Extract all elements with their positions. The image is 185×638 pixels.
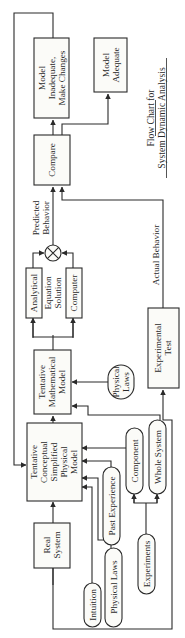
svg-text:Conceptual: Conceptual [39, 441, 49, 483]
actual-behavior-label: Actual Behavior [151, 225, 161, 285]
physical-laws-pill-1: Physical Laws [105, 548, 122, 627]
experimental-test-box: Experimental Test [148, 308, 179, 388]
experiments-pill: Experiments [138, 534, 155, 594]
svg-text:Intuition: Intuition [88, 589, 98, 621]
compare-box: Compare [34, 135, 70, 185]
model-inadequate-box: Model Inadequate, Make Changes [34, 38, 69, 118]
past-experience-connector [82, 461, 111, 467]
whole-system-connector [72, 406, 160, 420]
computer-box: Computer [66, 268, 82, 318]
analytical-box: Analytical [26, 268, 42, 318]
summing-junction [45, 245, 61, 261]
equation-solution-label: Equation Solution [43, 276, 63, 310]
svg-text:Past Experience: Past Experience [107, 477, 117, 536]
svg-text:Flow Chart for: Flow Chart for [145, 89, 156, 147]
intuition-connector [82, 487, 92, 583]
svg-text:Mathematical: Mathematical [47, 356, 57, 407]
svg-text:Experiments: Experiments [142, 540, 152, 587]
svg-text:Predicted: Predicted [31, 200, 41, 235]
svg-text:Compare: Compare [47, 143, 57, 177]
svg-text:Component: Component [130, 439, 140, 482]
svg-text:Solution: Solution [53, 277, 63, 309]
analytical-to-junction-connector [33, 253, 44, 268]
svg-text:Real: Real [42, 536, 52, 553]
svg-text:Simplified: Simplified [49, 442, 59, 481]
svg-text:Experimental: Experimental [153, 323, 163, 373]
computer-to-junction-connector [62, 253, 73, 268]
svg-text:Whole System: Whole System [153, 430, 163, 484]
past-experience-pill: Past Experience [103, 467, 120, 545]
svg-text:Equation: Equation [43, 276, 53, 310]
svg-text:Physical: Physical [111, 366, 121, 398]
svg-text:Actual Behavior: Actual Behavior [151, 225, 161, 285]
svg-text:Tentative: Tentative [29, 445, 39, 479]
svg-text:Model: Model [37, 66, 47, 90]
whole-system-pill: Whole System [149, 420, 166, 494]
chart-title: Flow Chart for System Dynamic Analysis [145, 58, 167, 178]
component-pill: Component [126, 428, 143, 494]
svg-text:System: System [52, 531, 62, 558]
svg-text:Laws: Laws [121, 372, 131, 392]
svg-text:Behavior: Behavior [41, 201, 51, 235]
svg-text:Analytical: Analytical [29, 273, 39, 312]
experiments-connector [134, 495, 157, 534]
math-to-solution-connector [33, 320, 73, 350]
physical-laws-pill-2: Physical Laws [108, 365, 134, 399]
real-system-box: Real System [34, 523, 70, 568]
svg-text:Adequate: Adequate [111, 47, 121, 82]
svg-text:System Dynamic Analysis: System Dynamic Analysis [156, 67, 167, 169]
conceptual-model-box: Tentative Conceptual Simplified Physical… [27, 423, 82, 501]
svg-text:Computer: Computer [69, 275, 79, 312]
model-adequate-box: Model Adequate [94, 38, 127, 92]
svg-text:Physical Laws: Physical Laws [109, 560, 119, 614]
svg-text:Physical: Physical [59, 446, 69, 478]
svg-text:Model: Model [101, 53, 111, 77]
svg-text:Inadequate,: Inadequate, [47, 57, 57, 100]
svg-text:Model: Model [69, 450, 79, 474]
svg-text:Make Changes: Make Changes [57, 50, 67, 105]
mathematical-model-box: Tentative Mathematical Model [34, 350, 71, 414]
predicted-behavior-label: Predicted Behavior [31, 200, 51, 235]
svg-text:Test: Test [163, 340, 173, 356]
svg-text:Tentative: Tentative [37, 365, 47, 399]
flow-chart-diagram: Model Inadequate, Make Changes Model Ade… [0, 0, 185, 638]
intuition-pill: Intuition [84, 583, 101, 627]
svg-text:Model: Model [57, 370, 67, 394]
